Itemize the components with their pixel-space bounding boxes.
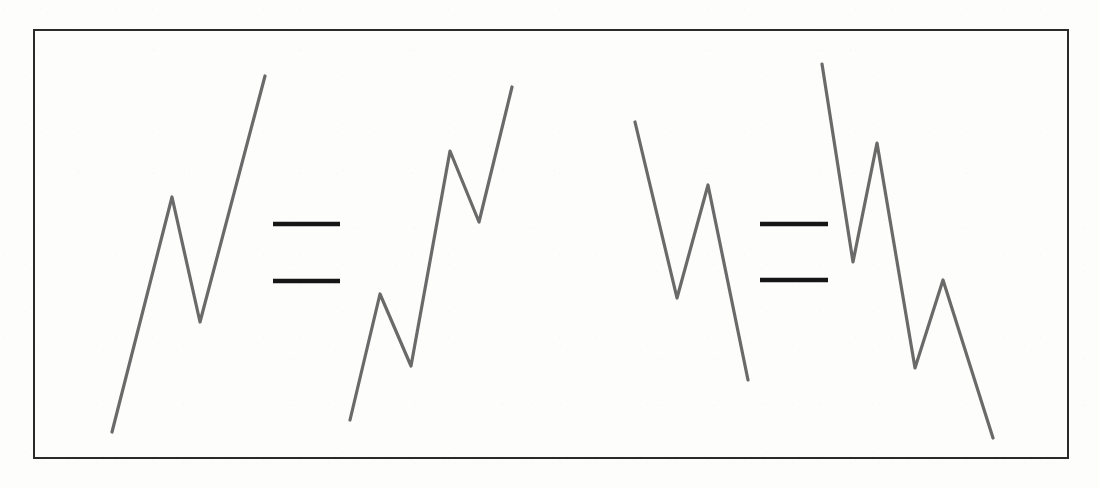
equals-sign-right-top-bar bbox=[760, 222, 828, 227]
figure-canvas bbox=[0, 0, 1099, 488]
equals-sign-left-bottom-bar bbox=[273, 279, 340, 284]
equals-sign-left-top-bar bbox=[273, 222, 340, 227]
figure-svg bbox=[0, 0, 1099, 488]
figure-background bbox=[0, 0, 1099, 488]
equals-sign-right-bottom-bar bbox=[760, 278, 828, 283]
